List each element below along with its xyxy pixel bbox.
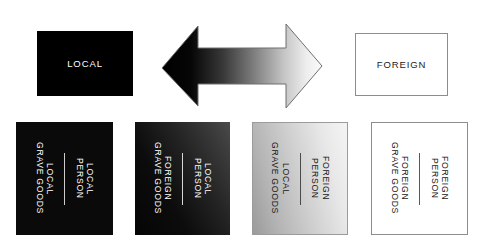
cell-4-goods-label: FOREIGN GRAVE GOODS — [389, 142, 410, 214]
cell-3-person-label: FOREIGN PERSON — [310, 156, 331, 200]
double-headed-gradient-arrow — [160, 22, 324, 110]
cell-4-divider — [419, 153, 420, 205]
cell-2-divider — [182, 153, 183, 205]
cell-2-person-label: LOCAL PERSON — [192, 158, 213, 199]
cell-3-goods-label: LOCAL GRAVE GOODS — [270, 142, 291, 214]
cell-1-divider — [64, 153, 65, 205]
cell-foreign-person-local-grave-goods: FOREIGN PERSON LOCAL GRAVE GOODS — [252, 122, 348, 235]
diagram-canvas: LOCAL FOREIGN LOCAL PERSON — [0, 0, 486, 249]
cell-4-person-label: FOREIGN PERSON — [429, 156, 450, 200]
foreign-box: FOREIGN — [355, 33, 448, 96]
local-box: LOCAL — [37, 31, 133, 96]
cell-2-goods-label: FOREIGN GRAVE GOODS — [152, 142, 173, 214]
foreign-box-label: FOREIGN — [377, 59, 427, 70]
cell-1-goods-label: LOCAL GRAVE GOODS — [34, 142, 55, 214]
double-headed-gradient-arrow-svg — [160, 22, 324, 110]
cell-3-divider — [300, 153, 301, 205]
local-box-label: LOCAL — [67, 58, 103, 69]
cell-local-person-local-grave-goods: LOCAL PERSON LOCAL GRAVE GOODS — [16, 122, 113, 235]
cell-foreign-person-foreign-grave-goods: FOREIGN PERSON FOREIGN GRAVE GOODS — [371, 122, 468, 235]
cell-1-person-label: LOCAL PERSON — [74, 158, 95, 199]
cell-local-person-foreign-grave-goods: LOCAL PERSON FOREIGN GRAVE GOODS — [135, 122, 230, 235]
